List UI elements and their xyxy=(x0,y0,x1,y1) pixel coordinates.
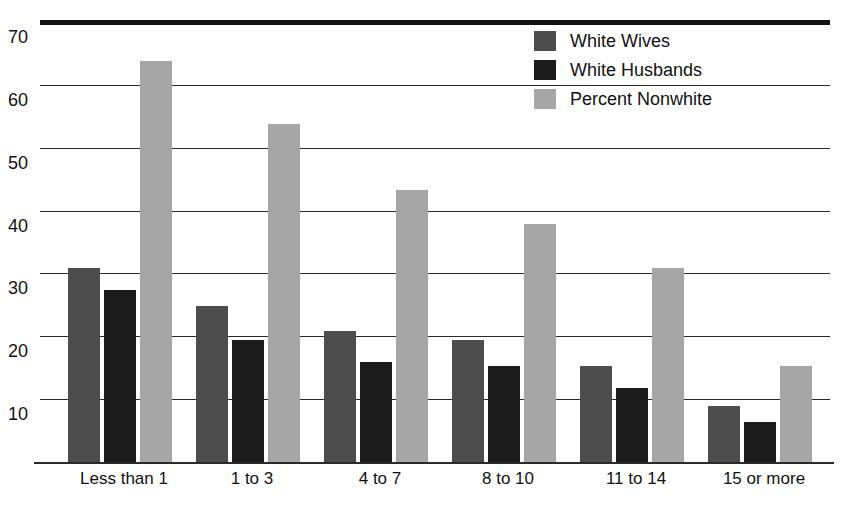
y-tick-label-70: 70 xyxy=(8,28,28,46)
bar xyxy=(232,340,264,463)
bar xyxy=(708,406,740,463)
y-tick-label-60: 60 xyxy=(8,91,28,109)
chart-legend: White WivesWhite HusbandsPercent Nonwhit… xyxy=(534,30,712,110)
bar xyxy=(396,190,428,463)
bar-group xyxy=(324,22,436,463)
bar xyxy=(780,366,812,463)
bar xyxy=(324,331,356,463)
y-tick-label-40: 40 xyxy=(8,217,28,235)
x-axis-baseline xyxy=(34,462,834,464)
bar xyxy=(104,290,136,463)
bar xyxy=(524,224,556,463)
legend-swatch-white-wives xyxy=(534,31,556,51)
bar xyxy=(488,366,520,463)
bar-group xyxy=(196,22,308,463)
legend-swatch-percent-nonwhite xyxy=(534,89,556,109)
bar-chart: 70605040302010 Less than 11 to 34 to 78 … xyxy=(0,0,846,507)
legend-label: White Wives xyxy=(570,32,670,50)
y-tick-label-30: 30 xyxy=(8,279,28,297)
legend-item[interactable]: White Wives xyxy=(534,30,712,52)
bar-group xyxy=(708,22,820,463)
x-tick-label: 15 or more xyxy=(686,470,842,487)
bar xyxy=(140,61,172,463)
bar xyxy=(68,268,100,463)
bar xyxy=(652,268,684,463)
bar xyxy=(196,306,228,463)
bar xyxy=(452,340,484,463)
bar xyxy=(360,362,392,463)
y-tick-label-20: 20 xyxy=(8,342,28,360)
legend-swatch-white-husbands xyxy=(534,60,556,80)
bar xyxy=(268,124,300,463)
legend-item[interactable]: White Husbands xyxy=(534,59,712,81)
bar xyxy=(616,388,648,463)
bar-group xyxy=(68,22,180,463)
legend-label: White Husbands xyxy=(570,61,702,79)
legend-label: Percent Nonwhite xyxy=(570,90,712,108)
y-tick-label-50: 50 xyxy=(8,154,28,172)
y-tick-label-10: 10 xyxy=(8,405,28,423)
bar xyxy=(580,366,612,463)
bar xyxy=(744,422,776,463)
legend-item[interactable]: Percent Nonwhite xyxy=(534,88,712,110)
